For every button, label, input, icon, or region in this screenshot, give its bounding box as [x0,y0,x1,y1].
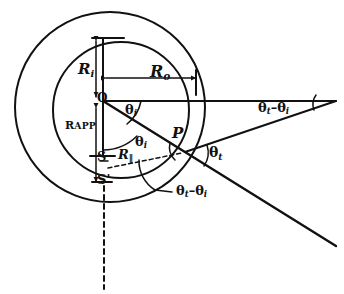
label-theta-t: θt [209,145,223,161]
label-inner-radius: Ri [78,62,94,79]
diagram-svg [0,0,344,294]
incident-ray-extended [103,101,336,246]
leader-line-bottom-label [155,190,172,192]
label-source-s: S [97,150,106,163]
label-outer-radius: Ro [150,64,170,82]
label-theta-i-upper: θi [125,103,137,118]
label-theta-diff-bottom: θt–θi [176,184,207,199]
label-parallel-radius: R‖ [118,148,133,163]
label-theta-i-lower: θi [135,135,147,150]
label-center-o: O [97,92,107,104]
label-point-p: P [172,126,183,141]
label-apparent-radius: RAPP [65,120,96,131]
angle-arc-theta-diff-bottom [139,160,155,190]
figure-canvas: Ri Ro RAPP S S' R‖ O P θi θi θt θt–θi θt… [0,0,344,294]
label-theta-diff-apex: θt–θi [258,101,289,116]
label-image-source-s-prime: S' [97,173,110,186]
